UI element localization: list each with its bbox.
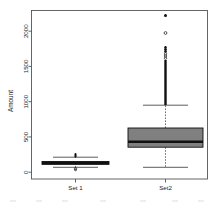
x-tick-label-set1: Set 1 [68, 184, 83, 191]
outlier-point [75, 153, 77, 155]
y-tick-label-500: 500 [22, 131, 29, 142]
y-axis-title: Amount [7, 90, 14, 112]
y-tick-label-1500: 1500 [22, 59, 29, 73]
outlier-point [164, 46, 166, 48]
y-axis-tick-labels: 0 500 1000 1500 2000 [22, 24, 29, 174]
box-body-set2 [128, 128, 203, 147]
x-axis-ticks [76, 179, 166, 183]
outlier-point [164, 14, 167, 17]
y-tick-label-0: 0 [22, 170, 29, 174]
box-group-set1 [42, 153, 109, 171]
plot-frame [32, 11, 208, 180]
boxplot-figure: 0 500 1000 1500 2000 Amount Set 1 Set2 [0, 0, 217, 206]
boxplot-canvas: 0 500 1000 1500 2000 Amount Set 1 Set2 [0, 0, 217, 206]
outlier-point [164, 32, 167, 35]
outlier-dense-column [164, 60, 166, 105]
y-tick-label-1000: 1000 [22, 94, 29, 108]
box-group-set2 [128, 14, 203, 167]
x-tick-label-set2: Set2 [159, 184, 172, 191]
outlier-cluster-set2 [164, 14, 167, 105]
y-tick-label-2000: 2000 [22, 24, 29, 38]
